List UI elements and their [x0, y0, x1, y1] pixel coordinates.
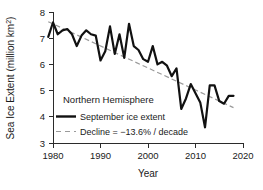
x-tick-labels: 1980 1990 2000 2010 2020	[42, 150, 253, 161]
x-tick-label: 2020	[232, 150, 253, 161]
y-tick-labels: 3 4 5 6 7 8	[40, 7, 45, 149]
y-tick-label: 5	[40, 85, 45, 96]
x-tick-label: 1990	[90, 150, 111, 161]
y-tick-label: 6	[40, 59, 45, 70]
y-axis-title-main: Sea Ice Extent (million km	[5, 24, 16, 140]
y-axis-title: Sea Ice Extent (million km2)	[5, 17, 16, 140]
y-tick-label: 4	[40, 111, 45, 122]
axes-group	[53, 12, 243, 143]
legend: September ice extent Decline = −13.6% / …	[56, 112, 188, 137]
sea-ice-extent-chart: 3 4 5 6 7 8 1980 1990 2000 2010 2020 Yea…	[0, 0, 263, 190]
y-tick-label: 3	[40, 138, 45, 149]
x-tick-label: 2000	[137, 150, 158, 161]
legend-label-dashed: Decline = −13.6% / decade	[80, 127, 188, 137]
y-tick-label: 8	[40, 7, 45, 18]
y-tick-label: 7	[40, 33, 45, 44]
hemisphere-annotation: Northern Hemisphere	[63, 94, 154, 105]
legend-label-solid: September ice extent	[80, 112, 166, 122]
chart-canvas: 3 4 5 6 7 8 1980 1990 2000 2010 2020 Yea…	[0, 0, 263, 190]
x-tick-marks	[53, 143, 243, 148]
x-axis-title: Year	[138, 168, 159, 179]
x-tick-label: 2010	[185, 150, 206, 161]
y-axis-title-close: )	[5, 17, 16, 20]
svg-text:Sea Ice Extent (million km2): Sea Ice Extent (million km2)	[5, 17, 16, 140]
x-tick-label: 1980	[42, 150, 63, 161]
